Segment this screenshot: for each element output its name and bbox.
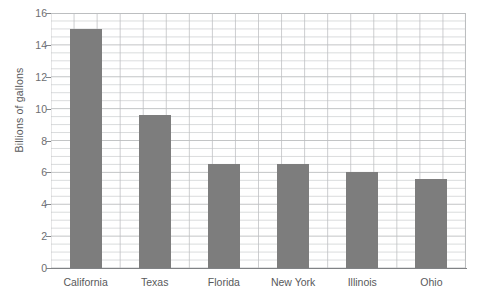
bar-chart: Billions of gallons 0246810121416 Califo… <box>0 0 477 301</box>
y-tick-label: 10 <box>7 103 47 115</box>
bar <box>70 29 102 268</box>
x-tick-label: Illinois <box>348 276 377 288</box>
y-tick-label: 14 <box>7 39 47 51</box>
bar <box>208 164 240 268</box>
y-tick-label: 0 <box>7 262 47 274</box>
x-tick-label: Texas <box>141 276 168 288</box>
x-axis-line <box>51 268 467 269</box>
y-tick-label: 2 <box>7 230 47 242</box>
x-tick-label: Florida <box>208 276 240 288</box>
bar <box>415 179 447 268</box>
y-tick-label: 8 <box>7 135 47 147</box>
x-tick-label: Ohio <box>420 276 442 288</box>
x-tick-label: New York <box>271 276 315 288</box>
y-tick-label: 12 <box>7 71 47 83</box>
bar <box>346 172 378 268</box>
bars-layer <box>51 13 466 268</box>
x-tick-label: California <box>63 276 107 288</box>
bar <box>277 164 309 268</box>
bar <box>139 115 171 268</box>
y-axis-ticks: 0246810121416 <box>0 0 47 301</box>
y-tick-label: 6 <box>7 166 47 178</box>
y-tick-label: 16 <box>7 7 47 19</box>
y-tick-label: 4 <box>7 198 47 210</box>
